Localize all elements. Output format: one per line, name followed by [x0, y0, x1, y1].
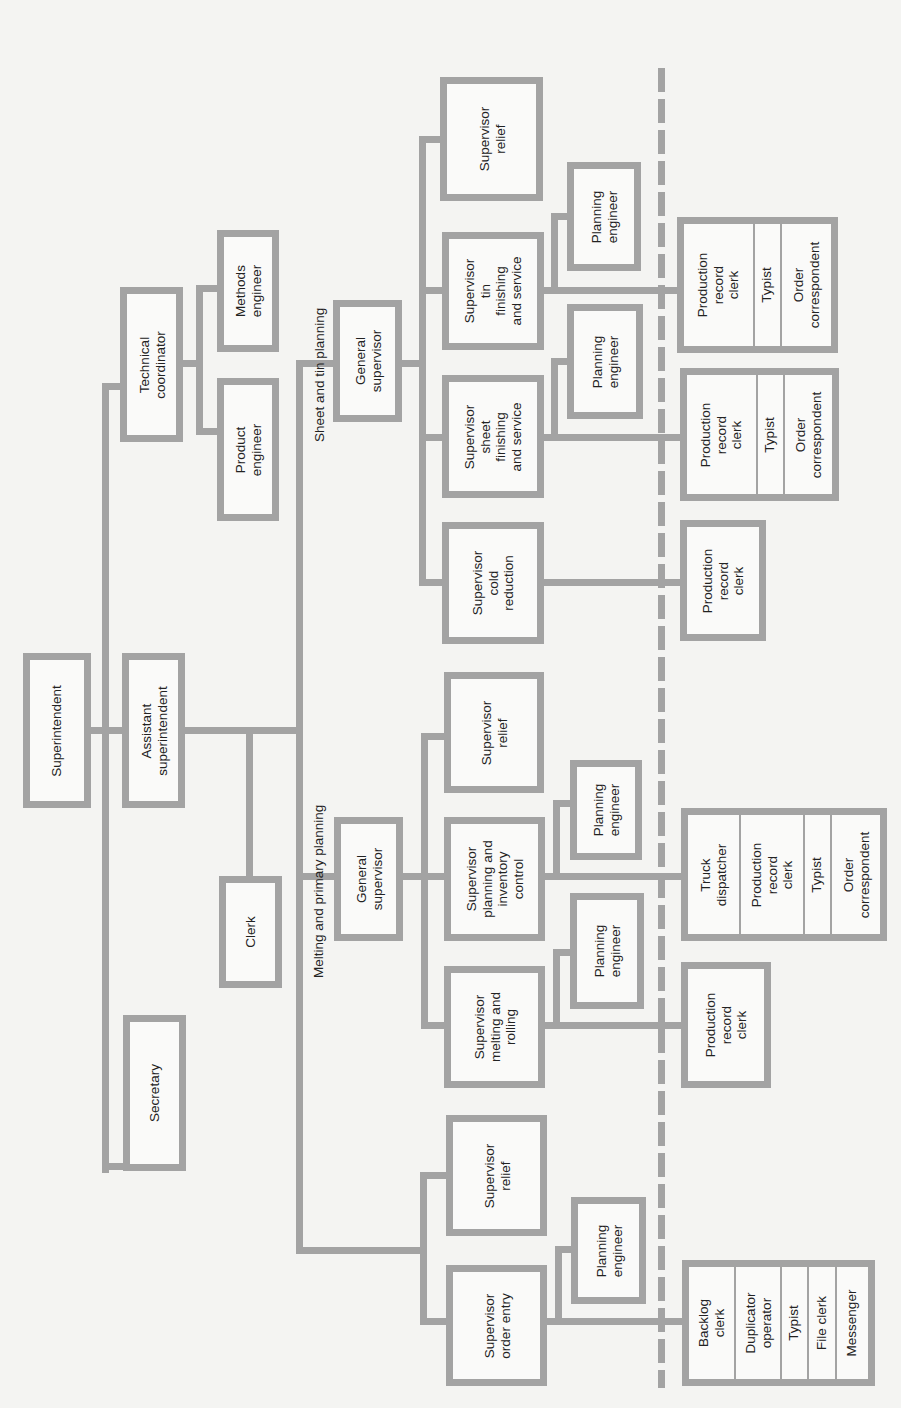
position-cell: Production record clerk — [684, 224, 753, 346]
connector-line — [419, 136, 440, 143]
dash-segment — [658, 1184, 665, 1208]
dash-segment — [658, 347, 665, 371]
connector-line — [421, 1022, 444, 1029]
dash-segment — [658, 1215, 665, 1239]
position-title: Planning engineer — [593, 1224, 624, 1277]
position-title: Superintendent — [49, 685, 65, 777]
position-box-planning-engineer-tin: Planning engineer — [567, 162, 641, 271]
position-cell: Planning engineer — [578, 1204, 639, 1297]
position-cell: Production record clerk — [688, 969, 764, 1081]
dash-segment — [658, 223, 665, 247]
dash-segment — [658, 998, 665, 1022]
position-box-technical-coordinator: Technical coordinator — [120, 287, 183, 442]
position-box-supervisor-relief-melting: Supervisor relief — [444, 672, 544, 793]
position-box-assistant-superintendent: Assistant superintendent — [122, 653, 185, 808]
position-box-supervisor-planning-inventory: Supervisor planning and inventory contro… — [444, 817, 545, 941]
dash-segment — [658, 688, 665, 712]
connector-line — [421, 733, 444, 740]
department-label-sheet-tin: Sheet and tin planning — [312, 308, 327, 442]
connector-line — [420, 1172, 446, 1179]
position-title: Product engineer — [233, 423, 264, 476]
connector-line — [419, 287, 442, 294]
position-title: General supervisor — [352, 330, 383, 392]
position-cell: Truck dispatcher — [688, 815, 739, 934]
connector-line — [420, 1318, 446, 1325]
dash-segment — [658, 719, 665, 743]
position-cell: Technical coordinator — [127, 294, 176, 435]
dash-segment — [658, 68, 665, 92]
connector-line — [102, 383, 109, 1173]
position-title: Order correspondent — [793, 391, 824, 477]
dash-segment — [658, 440, 665, 464]
position-cell: Order correspondent — [780, 224, 832, 346]
dash-segment — [658, 1122, 665, 1146]
position-title: Production record clerk — [695, 253, 742, 318]
position-title: Production record clerk — [748, 842, 795, 907]
position-cell: Secretary — [130, 1022, 179, 1164]
position-cell: Production record clerk — [687, 375, 756, 494]
position-cell: Supervisor order entry — [453, 1272, 540, 1379]
position-cell: Typist — [756, 375, 783, 494]
connector-line — [545, 1022, 681, 1029]
connector-line — [420, 1172, 427, 1325]
position-cell: Typist — [803, 815, 830, 934]
connector-line — [296, 1247, 423, 1254]
position-title: Planning engineer — [590, 335, 621, 388]
position-cell: Production record clerk — [687, 527, 759, 634]
position-title: Order correspondent — [840, 831, 871, 917]
dash-segment — [658, 874, 665, 898]
position-cell: General supervisor — [341, 824, 396, 934]
position-cell: Methods engineer — [224, 237, 272, 345]
dash-segment — [658, 99, 665, 123]
dash-segment — [658, 471, 665, 495]
position-title: Typist — [762, 417, 778, 452]
position-cell: Production record clerk — [739, 815, 803, 934]
dash-segment — [658, 254, 665, 278]
dash-segment — [658, 843, 665, 867]
position-cell: Superintendent — [30, 660, 84, 801]
connector-line — [196, 428, 217, 435]
position-title: Supervisor relief — [476, 107, 507, 172]
position-title: Planning engineer — [592, 925, 623, 978]
dash-segment — [658, 967, 665, 991]
position-box-supervisor-order-entry: Supervisor order entry — [446, 1265, 547, 1386]
position-title: Methods engineer — [233, 265, 264, 318]
position-cell: Planning engineer — [574, 169, 634, 264]
position-cell: Supervisor melting and rolling — [451, 973, 538, 1081]
dash-segment — [658, 1029, 665, 1053]
connector-line — [296, 360, 303, 1254]
connector-line — [419, 136, 426, 586]
connector-line — [553, 949, 570, 956]
position-box-clerical-inventory: Truck dispatcherProduction record clerkT… — [681, 808, 887, 941]
position-box-supervisor-melting-rolling: Supervisor melting and rolling — [444, 966, 545, 1088]
position-title: Truck dispatcher — [698, 843, 729, 905]
dash-segment — [658, 378, 665, 402]
connector-line — [551, 358, 567, 365]
position-cell: Order correspondent — [830, 815, 881, 934]
dash-segment — [658, 595, 665, 619]
position-cell: Typist — [753, 224, 780, 346]
connector-line — [553, 949, 560, 1029]
position-box-supervisor-tin-finishing: Supervisor tin finishing and service — [442, 232, 544, 350]
position-cell: Product engineer — [224, 385, 272, 514]
position-cell: Clerk — [226, 883, 275, 981]
position-cell: Planning engineer — [574, 311, 636, 412]
position-title: Assistant superintendent — [138, 686, 169, 775]
position-cell: Backlog clerk — [689, 1267, 734, 1379]
dash-segment — [658, 657, 665, 681]
connector-line — [196, 285, 217, 292]
position-box-supervisor-relief-sheet-tin: Supervisor relief — [440, 77, 543, 201]
position-title: Supervisor order entry — [481, 1293, 512, 1358]
position-box-clerical-sheet: Production record clerkTypistOrder corre… — [680, 368, 839, 501]
connector-line — [421, 873, 444, 880]
position-cell: Messenger — [835, 1267, 869, 1379]
dash-segment — [658, 1308, 665, 1332]
position-box-supervisor-sheet-finishing: Supervisor sheet finishing and service — [442, 375, 544, 498]
position-title: Typist — [786, 1305, 802, 1340]
org-chart: Sheet and tin planning Melting and prima… — [0, 0, 901, 1408]
dash-segment — [658, 812, 665, 836]
connector-line — [419, 434, 442, 441]
position-box-clerk: Clerk — [219, 876, 282, 988]
position-cell: Supervisor tin finishing and service — [449, 239, 537, 343]
position-box-general-supervisor-melting: General supervisor — [334, 817, 403, 941]
